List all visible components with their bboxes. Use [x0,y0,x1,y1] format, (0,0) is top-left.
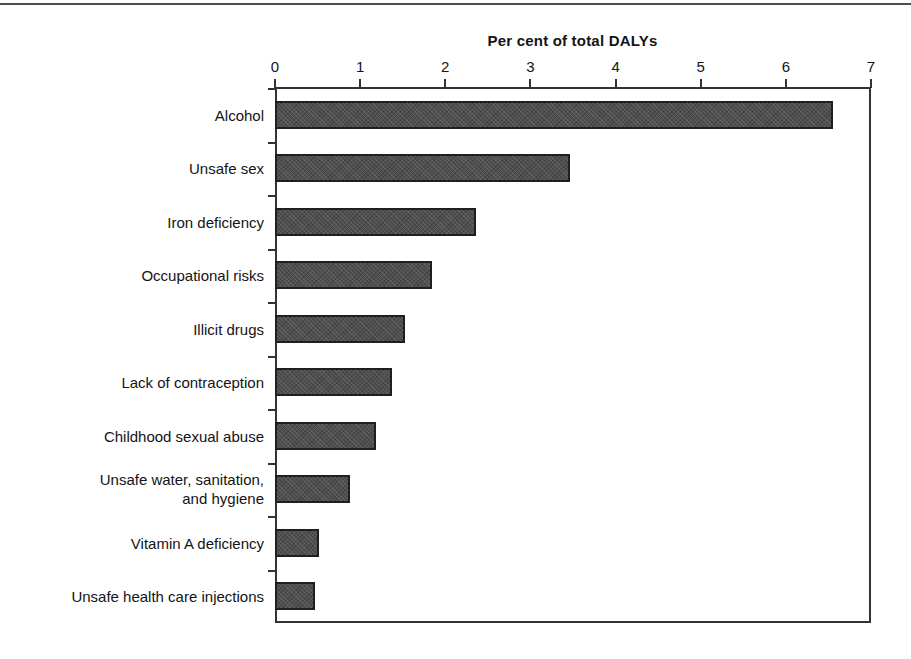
bar [275,261,432,289]
y-axis-category-label: Unsafe health care injections [71,587,264,606]
x-axis-tick-label: 3 [515,58,545,75]
y-axis-tick-mark [268,249,277,251]
bar-row: Occupational risks [0,249,911,303]
x-axis-tick-label: 0 [260,58,290,75]
y-axis-category-label: Alcohol [215,105,264,124]
y-axis-tick-mark [268,409,277,411]
x-axis-tick-label: 4 [601,58,631,75]
bar-row: Illicit drugs [0,302,911,356]
bar-row: Alcohol [0,88,911,142]
x-axis-tick-label: 2 [430,58,460,75]
y-axis-category-label: Lack of contraception [121,373,264,392]
x-axis-tick-mark [274,79,276,88]
bar [275,154,570,182]
bar-row: Iron deficiency [0,195,911,249]
y-axis-tick-mark [268,516,277,518]
x-axis-tick-mark [359,79,361,88]
y-axis-tick-mark [268,356,277,358]
x-axis-tick-mark [615,79,617,88]
bar-row: Unsafe health care injections [0,570,911,624]
page-top-rule [0,3,911,5]
x-axis-tick-mark [700,79,702,88]
x-axis-tick-label: 7 [856,58,886,75]
x-axis-tick-mark [529,79,531,88]
x-axis-tick-label: 6 [771,58,801,75]
bar-row: Childhood sexual abuse [0,409,911,463]
y-axis-category-label: Iron deficiency [167,212,264,231]
bar-row: Unsafe water, sanitation, and hygiene [0,463,911,517]
y-axis-tick-mark [268,88,277,90]
y-axis-category-label: Childhood sexual abuse [104,426,264,445]
bar-rows: AlcoholUnsafe sexIron deficiencyOccupati… [0,88,911,623]
y-axis-category-label: Unsafe water, sanitation, and hygiene [100,470,264,508]
y-axis-tick-mark [268,463,277,465]
x-axis-tick-mark [444,79,446,88]
x-axis-tick-mark [785,79,787,88]
y-axis-category-label: Occupational risks [141,266,264,285]
bar [275,422,376,450]
bar [275,582,315,610]
x-axis-tick-label: 5 [686,58,716,75]
y-axis-tick-mark [268,195,277,197]
chart-page: Per cent of total DALYs 01234567 Alcohol… [0,0,911,659]
bar [275,208,476,236]
bar [275,368,392,396]
bar-row: Unsafe sex [0,142,911,196]
bar [275,101,833,129]
x-axis-tick-label: 1 [345,58,375,75]
y-axis-tick-mark [268,142,277,144]
bar [275,475,350,503]
y-axis-tick-mark [268,570,277,572]
bar [275,529,319,557]
y-axis-tick-mark [268,302,277,304]
bar-row: Lack of contraception [0,356,911,410]
y-axis-category-label: Unsafe sex [189,159,264,178]
x-axis-tick-labels: 01234567 [0,58,911,78]
chart-title: Per cent of total DALYs [275,32,870,49]
y-axis-category-label: Illicit drugs [193,319,264,338]
x-axis-tick-mark [870,79,872,88]
y-axis-category-label: Vitamin A deficiency [131,533,264,552]
bar-row: Vitamin A deficiency [0,516,911,570]
bar [275,315,405,343]
